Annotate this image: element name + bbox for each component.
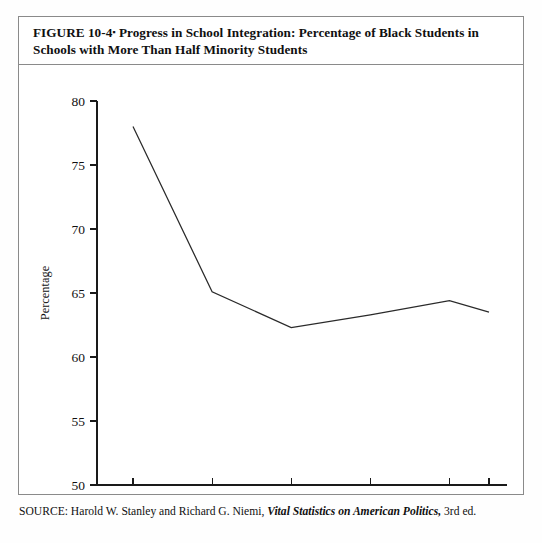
- x-tick-label: 1986: [476, 493, 503, 495]
- figure-number: FIGURE 10-4: [33, 25, 112, 40]
- title-bullet-icon: ▪: [112, 27, 115, 37]
- x-tick-label: 1976: [278, 493, 305, 495]
- y-tick-label: 55: [72, 414, 86, 429]
- y-tick-label: 65: [72, 286, 86, 301]
- figure-title: FIGURE 10-4▪ Progress in School Integrat…: [33, 24, 509, 58]
- line-chart: 50556065707580 196819721976198019841986 …: [19, 65, 523, 495]
- y-tick-label: 70: [72, 222, 86, 237]
- figure-root: FIGURE 10-4▪ Progress in School Integrat…: [0, 0, 542, 543]
- x-tick-label: 1972: [199, 493, 226, 495]
- figure-frame: FIGURE 10-4▪ Progress in School Integrat…: [18, 16, 524, 495]
- source-prefix: SOURCE: Harold W. Stanley and Richard G.…: [19, 505, 264, 518]
- source-note: SOURCE: Harold W. Stanley and Richard G.…: [19, 505, 531, 519]
- y-tick-label: 60: [72, 350, 86, 365]
- y-tick-label: 75: [72, 158, 86, 173]
- x-tick-label: 1984: [436, 493, 463, 495]
- source-suffix: 3rd ed.: [444, 505, 476, 518]
- x-axis-ticks: [133, 478, 489, 485]
- plot-area: 50556065707580 196819721976198019841986 …: [19, 65, 523, 495]
- x-tick-label: 1968: [120, 493, 147, 495]
- source-title-italic: Vital Statistics on American Politics,: [267, 505, 441, 518]
- y-tick-label: 50: [72, 478, 86, 493]
- y-axis-tick-labels: 50556065707580: [72, 94, 86, 493]
- x-axis-tick-labels: 196819721976198019841986: [120, 493, 503, 495]
- y-axis-ticks: [90, 101, 97, 485]
- data-series-line: [133, 127, 489, 328]
- figure-title-band: FIGURE 10-4▪ Progress in School Integrat…: [19, 17, 523, 65]
- y-axis-title: Percentage: [38, 265, 52, 320]
- x-tick-label: 1980: [357, 493, 384, 495]
- chart-axes: [97, 101, 507, 485]
- y-tick-label: 80: [72, 94, 86, 109]
